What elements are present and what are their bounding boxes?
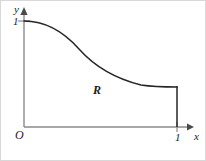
x-axis-label: x — [194, 131, 199, 142]
boundary-curve — [24, 21, 177, 87]
x-axis — [24, 123, 194, 130]
y-axis-label: y — [14, 4, 19, 15]
x-axis-tick-label-one: 1 — [175, 132, 181, 143]
y-axis-tick-label-one: 1 — [13, 16, 19, 27]
figure-canvas: y x O 1 1 R — [0, 0, 206, 161]
y-axis — [20, 7, 27, 127]
origin-label: O — [15, 129, 24, 141]
x-axis-arrowhead — [187, 123, 194, 130]
y-axis-arrowhead — [20, 7, 27, 15]
region-label: R — [93, 84, 101, 96]
